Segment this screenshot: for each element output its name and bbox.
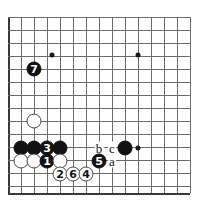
grid-line-horizontal-5 (8, 82, 190, 83)
stone-move-number: 1 (43, 155, 51, 166)
grid-line-horizontal-3 (8, 56, 190, 57)
point-marker-a[interactable]: a (108, 155, 116, 168)
black-move-7[interactable]: 7 (27, 62, 42, 77)
black-stone-a4[interactable] (118, 141, 133, 156)
go-board-diagram: bca3152647 (0, 0, 204, 207)
stone-move-number: 3 (43, 142, 51, 153)
go-board-surface[interactable]: bca3152647 (0, 0, 204, 207)
grid-line-horizontal-7 (8, 108, 190, 109)
stone-move-number: 2 (56, 168, 64, 179)
grid-line-horizontal-12 (8, 173, 190, 174)
black-move-5[interactable]: 5 (92, 154, 107, 169)
white-stone-b1[interactable] (27, 114, 42, 129)
stone-move-number: 6 (69, 168, 77, 179)
grid-line-horizontal-1 (8, 30, 190, 31)
hoshi-lower-right (136, 146, 141, 151)
grid-line-vertical-14 (190, 17, 191, 193)
grid-line-horizontal-14 (8, 193, 190, 195)
white-move-4[interactable]: 4 (79, 167, 94, 182)
grid-line-horizontal-13 (8, 186, 190, 187)
stone-move-number: 7 (30, 63, 38, 74)
grid-line-horizontal-9 (8, 134, 190, 135)
grid-line-horizontal-0 (8, 17, 190, 18)
stone-move-number: 4 (82, 168, 90, 179)
stone-move-number: 5 (95, 155, 103, 166)
hoshi-upper-right (136, 53, 141, 58)
grid-line-horizontal-2 (8, 43, 190, 44)
grid-line-horizontal-6 (8, 95, 190, 96)
hoshi-upper-left (50, 53, 55, 58)
